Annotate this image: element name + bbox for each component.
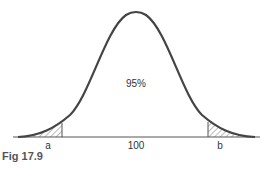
center-label: 100 bbox=[128, 140, 145, 151]
a-label: a bbox=[45, 140, 51, 151]
left-tail-shading bbox=[18, 90, 62, 138]
percent-label: 95% bbox=[126, 78, 146, 89]
right-tail-shading bbox=[208, 90, 255, 138]
figure-caption: Fig 17.9 bbox=[2, 150, 43, 162]
bell-curve bbox=[18, 12, 255, 137]
b-label: b bbox=[217, 140, 223, 151]
